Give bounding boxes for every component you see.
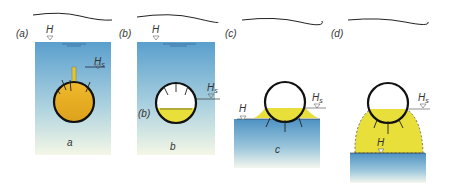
svg-text:(b): (b) — [138, 108, 150, 119]
panel-caption-c: c — [275, 144, 280, 155]
svg-text:H: H — [377, 137, 385, 148]
panel-tag-b: (b) — [119, 28, 131, 39]
head-label-Hs: Hs — [312, 92, 323, 104]
svg-text:H: H — [152, 24, 160, 35]
water-level-marker-icon — [47, 36, 53, 40]
panel-d: (d) H Hs — [331, 19, 430, 183]
panel-tag-d: (d) — [331, 28, 343, 39]
panel-b: (b) H Hs (b) b — [119, 15, 220, 155]
panel-a: (a) H Hs a — [16, 13, 112, 155]
panel-c: (c) H Hs c — [225, 18, 326, 168]
groundwater-pipe-diagram: (a) H Hs a (b) H Hs (b) b — [0, 0, 452, 189]
panel-caption-b: b — [170, 141, 176, 152]
groundwater-zone — [350, 153, 426, 183]
head-label-Hs: Hs — [207, 82, 218, 94]
panel-caption-a: a — [67, 137, 73, 148]
head-label-H: H — [46, 24, 54, 35]
panel-tag-c: (c) — [225, 28, 237, 39]
vent-pipe — [72, 67, 76, 83]
panel-tag-a: (a) — [16, 28, 28, 39]
svg-text:H: H — [239, 103, 247, 114]
ground-surface-line — [33, 13, 112, 20]
head-label-Hs: Hs — [418, 92, 429, 104]
